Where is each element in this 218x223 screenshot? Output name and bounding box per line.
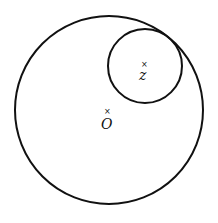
point-o-label: O — [101, 116, 113, 132]
diagram-canvas: × z × O — [0, 0, 218, 223]
point-z-label: z — [138, 67, 147, 83]
point-o-marker: × — [104, 107, 111, 116]
